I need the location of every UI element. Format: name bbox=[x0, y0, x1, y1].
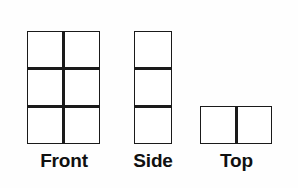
front-cell-r2c2 bbox=[65, 70, 99, 105]
top-cell-r1c2 bbox=[238, 107, 272, 143]
front-cell-r3c1 bbox=[28, 108, 62, 143]
orthographic-views-figure: Front Side Top bbox=[0, 0, 298, 188]
top-view-grid bbox=[200, 106, 272, 144]
side-cell-r3c1 bbox=[135, 108, 171, 143]
side-cell-r2c1 bbox=[135, 70, 171, 105]
front-cell-r2c1 bbox=[28, 70, 62, 105]
front-view-label: Front bbox=[27, 149, 101, 172]
side-view-grid bbox=[134, 31, 172, 144]
front-cell-r3c2 bbox=[65, 108, 99, 143]
front-cell-r1c1 bbox=[28, 32, 62, 67]
front-cell-r1c2 bbox=[65, 32, 99, 67]
side-cell-r1c1 bbox=[135, 32, 171, 67]
top-view-label: Top bbox=[201, 149, 272, 172]
front-view-grid bbox=[27, 31, 100, 144]
top-cell-r1c1 bbox=[201, 107, 235, 143]
side-view-label: Side bbox=[126, 149, 180, 172]
